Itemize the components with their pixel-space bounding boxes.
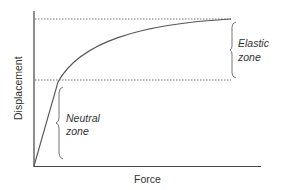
neutral-zone-brace <box>56 87 63 159</box>
neutral-zone-label-line2: zone <box>66 125 89 138</box>
neutral-zone-label-line1: Neutral <box>66 112 100 125</box>
elastic-zone-label-line1: Elastic <box>238 37 269 50</box>
x-axis-label: Force <box>134 173 161 186</box>
elastic-zone-label-line2: zone <box>238 51 261 64</box>
displacement-curve <box>34 19 231 166</box>
diagram-canvas <box>0 0 281 190</box>
y-axis-label: Displacement <box>12 56 25 120</box>
elastic-zone-brace <box>230 22 236 78</box>
